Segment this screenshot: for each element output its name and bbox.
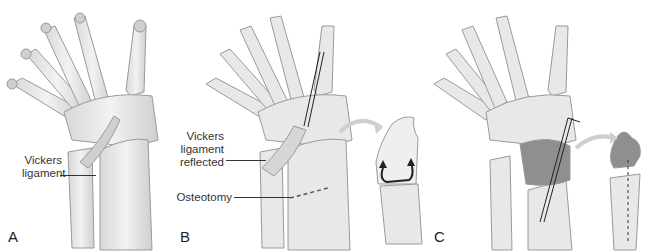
panel-letter-a: A xyxy=(8,228,18,245)
vickers-ligament-label: Vickers ligament xyxy=(22,154,62,180)
leader-line xyxy=(226,160,266,161)
label-line: ligament xyxy=(22,167,62,180)
leader-line xyxy=(60,175,96,176)
label-line: Osteotomy xyxy=(166,191,232,204)
leader-line xyxy=(234,197,290,198)
panel-b: Vickers ligament reflected Osteotomy B xyxy=(170,0,440,251)
panel-letter-b: B xyxy=(180,228,190,245)
label-line: Vickers xyxy=(22,154,62,167)
label-line: ligament xyxy=(172,143,224,156)
label-line: reflected xyxy=(172,156,224,169)
label-line: Vickers xyxy=(172,130,224,143)
hand-skeleton-illustration-b xyxy=(170,0,440,251)
panel-c: C xyxy=(430,0,660,251)
vickers-ligament-reflected-label: Vickers ligament reflected xyxy=(172,130,224,169)
osteotomy-label: Osteotomy xyxy=(166,191,232,204)
hand-skeleton-illustration-c xyxy=(430,0,660,251)
panel-letter-c: C xyxy=(434,228,445,245)
